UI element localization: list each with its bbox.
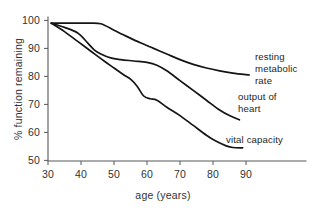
label-heart-line-2: heart [238,103,261,114]
y-tick-label-50: 50 [28,154,40,166]
line-chart: 50 60 70 80 90 100 30 40 50 60 70 80 90 … [0,0,312,211]
label-vital-capacity-line-1: vital capacity [226,134,283,145]
label-vital-capacity: vital capacity [226,134,283,145]
label-heart-line-1: output of [238,91,277,102]
y-tick-label-70: 70 [28,98,40,110]
label-rmr-line-1: resting [255,51,285,62]
x-axis-title: age (years) [135,189,190,201]
y-tick-label-90: 90 [28,42,40,54]
y-tick-label-80: 80 [28,70,40,82]
chart-figure: 50 60 70 80 90 100 30 40 50 60 70 80 90 … [0,0,312,211]
x-tick-label-60: 60 [141,168,153,180]
y-axis-title: % function remaining [12,38,24,140]
x-tick-label-80: 80 [207,168,219,180]
x-tick-label-30: 30 [42,168,54,180]
x-tick-label-90: 90 [240,168,252,180]
x-tick-label-70: 70 [174,168,186,180]
label-rmr-line-2: metabolic [255,63,297,74]
y-tick-label-100: 100 [22,14,40,26]
y-tick-label-60: 60 [28,126,40,138]
label-rmr-line-3: rate [255,75,272,86]
x-tick-label-50: 50 [108,168,120,180]
x-tick-label-40: 40 [75,168,87,180]
